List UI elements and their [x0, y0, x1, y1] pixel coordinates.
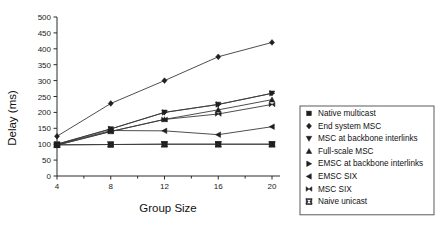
series-7	[54, 141, 275, 147]
x-axis: 48121620	[55, 176, 280, 191]
y-tick-label: 250	[38, 93, 52, 102]
series-marker-triangle-left	[269, 124, 274, 130]
y-tick-label: 500	[38, 13, 52, 22]
x-axis-title: Group Size	[139, 202, 197, 214]
x-tick-label: 8	[109, 182, 114, 191]
legend-item[interactable]: MSC at backbone interlinks	[306, 134, 417, 143]
legend-item-label: Full-scale MSC	[318, 147, 374, 156]
legend-item-label: MSC SIX	[318, 185, 352, 194]
x-tick-label: 4	[55, 182, 60, 191]
series-3	[54, 97, 275, 148]
series-layer	[54, 40, 275, 148]
series-6	[54, 102, 275, 147]
series-line	[57, 42, 272, 136]
y-axis: 050100150200250300350400450500	[38, 13, 57, 181]
y-tick-label: 450	[38, 29, 52, 38]
legend: Native multicastEnd system MSCMSC at bac…	[300, 106, 434, 215]
series-marker-diamond	[54, 133, 59, 139]
series-line	[57, 100, 272, 145]
y-tick-label: 100	[38, 140, 52, 149]
y-tick-label: 400	[38, 45, 52, 54]
legend-item[interactable]: EMSC at backbone interlinks	[307, 159, 423, 168]
series-marker-diamond	[162, 78, 167, 84]
legend-item[interactable]: Native multicast	[307, 109, 377, 118]
series-marker-triangle-left	[162, 128, 167, 134]
series-marker-triangle-up	[269, 97, 275, 102]
legend-item[interactable]: End system MSC	[306, 122, 381, 131]
chart-figure: 050100150200250300350400450500 48121620 …	[0, 0, 438, 229]
y-tick-label: 0	[47, 172, 52, 181]
x-tick-label: 16	[214, 182, 223, 191]
series-1	[54, 40, 274, 140]
legend-item-label: End system MSC	[318, 122, 381, 131]
series-marker-triangle-left	[215, 132, 220, 138]
delay-vs-group-size-line-chart: 050100150200250300350400450500 48121620 …	[0, 0, 438, 229]
y-axis-title: Delay (ms)	[6, 90, 18, 146]
series-marker-diamond	[269, 40, 274, 46]
y-tick-label: 50	[42, 156, 51, 165]
x-tick-label: 20	[268, 182, 277, 191]
legend-item-label: Native multicast	[318, 109, 377, 118]
legend-item-label: EMSC SIX	[318, 172, 358, 181]
y-tick-label: 350	[38, 61, 52, 70]
x-tick-label: 12	[160, 182, 169, 191]
series-marker-bowtie	[269, 102, 275, 107]
series-marker-square	[307, 111, 312, 116]
y-tick-label: 150	[38, 124, 52, 133]
y-tick-label: 300	[38, 77, 52, 86]
legend-item-label: MSC at backbone interlinks	[318, 134, 418, 143]
series-marker-diamond	[108, 101, 113, 107]
y-tick-label: 200	[38, 108, 52, 117]
legend-item-label: EMSC at backbone interlinks	[318, 159, 423, 168]
legend-item-label: Naive unicast	[318, 197, 368, 206]
series-marker-diamond	[216, 54, 221, 60]
